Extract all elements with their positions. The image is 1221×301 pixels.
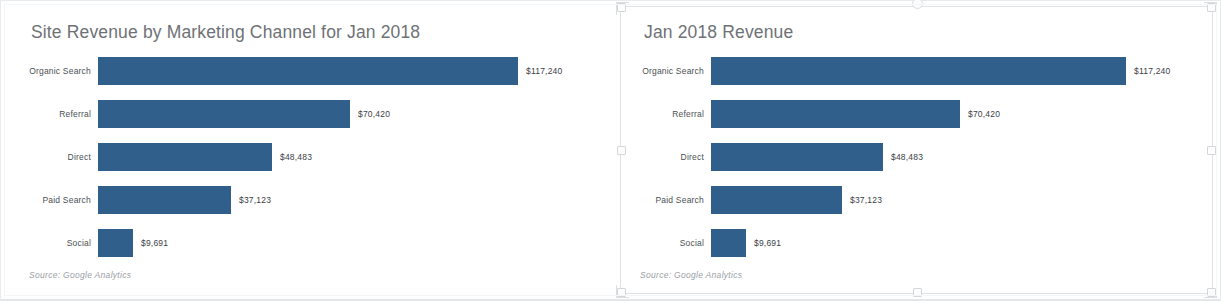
category-label-social: Social xyxy=(636,238,711,248)
bar-wrap: $37,123 xyxy=(98,186,591,214)
slide-canvas: Site Revenue by Marketing Channel for Ja… xyxy=(0,0,1221,301)
chart-panel-right[interactable]: Jan 2018 Revenue Organic Search $117,240… xyxy=(626,8,1206,294)
bar-wrap: $70,420 xyxy=(98,100,591,128)
bar-value-direct: $48,483 xyxy=(272,152,312,162)
bar-row[interactable]: Direct $48,483 xyxy=(19,139,591,175)
resize-handle-bottom-right[interactable] xyxy=(1207,288,1216,297)
chart-right-source-note: Source: Google Analytics xyxy=(640,270,742,280)
bar-row[interactable]: Paid Search $37,123 xyxy=(636,182,1196,218)
bar-value-social: $9,691 xyxy=(746,238,781,248)
bar-organic-search[interactable] xyxy=(711,57,1126,85)
bar-referral[interactable] xyxy=(98,100,350,128)
resize-handle-bottom-left[interactable] xyxy=(617,288,626,297)
chart-right-plot: Organic Search $117,240 Referral $70,420… xyxy=(636,53,1196,261)
bar-organic-search[interactable] xyxy=(98,57,518,85)
bar-paid-search[interactable] xyxy=(98,186,231,214)
bar-value-organic-search: $117,240 xyxy=(518,66,562,76)
bar-row[interactable]: Social $9,691 xyxy=(19,225,591,261)
bar-row[interactable]: Referral $70,420 xyxy=(636,96,1196,132)
bar-paid-search[interactable] xyxy=(711,186,842,214)
resize-handle-middle-left[interactable] xyxy=(617,146,626,155)
bar-value-direct: $48,483 xyxy=(883,152,923,162)
category-label-referral: Referral xyxy=(636,109,711,119)
category-label-organic-search: Organic Search xyxy=(636,66,711,76)
bar-wrap: $9,691 xyxy=(98,229,591,257)
chart-panel-left[interactable]: Site Revenue by Marketing Channel for Ja… xyxy=(9,8,601,294)
category-label-social: Social xyxy=(19,238,98,248)
chart-right-title: Jan 2018 Revenue xyxy=(644,22,1196,43)
chart-right-inner: Jan 2018 Revenue Organic Search $117,240… xyxy=(626,8,1206,294)
bar-row[interactable]: Social $9,691 xyxy=(636,225,1196,261)
bar-wrap: $48,483 xyxy=(98,143,591,171)
chart-left-source-note: Source: Google Analytics xyxy=(29,270,131,280)
bar-social[interactable] xyxy=(98,229,133,257)
category-label-paid-search: Paid Search xyxy=(636,195,711,205)
bar-referral[interactable] xyxy=(711,100,960,128)
bar-direct[interactable] xyxy=(98,143,272,171)
category-label-direct: Direct xyxy=(636,152,711,162)
bar-row[interactable]: Direct $48,483 xyxy=(636,139,1196,175)
bar-direct[interactable] xyxy=(711,143,883,171)
bar-row[interactable]: Referral $70,420 xyxy=(19,96,591,132)
bar-wrap: $48,483 xyxy=(711,143,1196,171)
chart-left-plot: Organic Search $117,240 Referral $70,420… xyxy=(19,53,591,261)
bar-social[interactable] xyxy=(711,229,746,257)
bar-wrap: $70,420 xyxy=(711,100,1196,128)
bar-value-paid-search: $37,123 xyxy=(842,195,882,205)
bar-value-social: $9,691 xyxy=(133,238,168,248)
bar-value-paid-search: $37,123 xyxy=(231,195,271,205)
bar-wrap: $37,123 xyxy=(711,186,1196,214)
resize-handle-top-right[interactable] xyxy=(1207,3,1216,12)
chart-left-inner: Site Revenue by Marketing Channel for Ja… xyxy=(9,8,601,294)
category-label-direct: Direct xyxy=(19,152,98,162)
bar-row[interactable]: Organic Search $117,240 xyxy=(636,53,1196,89)
bar-row[interactable]: Paid Search $37,123 xyxy=(19,182,591,218)
chart-left-title: Site Revenue by Marketing Channel for Ja… xyxy=(31,22,591,43)
resize-handle-middle-right[interactable] xyxy=(1207,146,1216,155)
bar-wrap: $117,240 xyxy=(711,57,1196,85)
category-label-organic-search: Organic Search xyxy=(19,66,98,76)
category-label-referral: Referral xyxy=(19,109,98,119)
bar-value-referral: $70,420 xyxy=(350,109,390,119)
category-label-paid-search: Paid Search xyxy=(19,195,98,205)
bar-wrap: $9,691 xyxy=(711,229,1196,257)
resize-handle-top-left[interactable] xyxy=(617,3,626,12)
bar-value-organic-search: $117,240 xyxy=(1126,66,1170,76)
bar-row[interactable]: Organic Search $117,240 xyxy=(19,53,591,89)
bar-value-referral: $70,420 xyxy=(960,109,1000,119)
bar-wrap: $117,240 xyxy=(98,57,591,85)
